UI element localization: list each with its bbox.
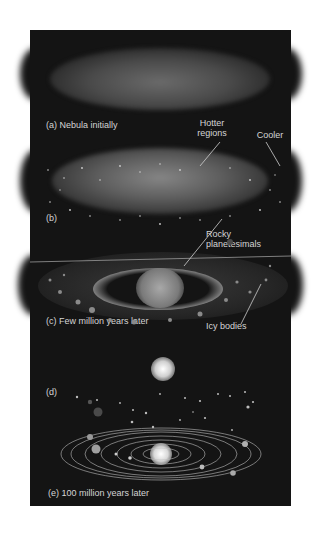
stars-b <box>47 163 281 225</box>
disk-plane-line <box>30 256 291 262</box>
cooler-pointer-line <box>266 142 280 166</box>
diagram-graphics <box>30 30 291 506</box>
icy-pointer-line <box>241 284 261 324</box>
hotter-pointer-line <box>200 142 220 166</box>
rocky-pointer-line <box>184 219 222 266</box>
bodies-d <box>76 391 254 431</box>
figure-panel: (a) Nebula initially Hotter regions Cool… <box>30 30 291 506</box>
planetesimals-c <box>49 239 272 325</box>
